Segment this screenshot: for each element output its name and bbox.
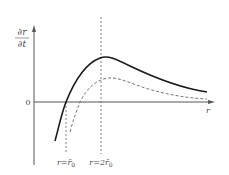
diagram-canvas: ∂r ∂t 0 r r=r̄0 r=2r̄0 [0,0,229,175]
origin-label: 0 [25,98,30,107]
solid-curve [55,57,207,141]
dashed-curve [70,78,207,132]
y-axis-arrow-icon [32,25,36,32]
x-axis-label: r [206,106,211,115]
reference-label-2r0: r=2r̄0 [89,158,112,168]
y-axis-label-denominator: ∂t [18,39,27,49]
y-axis-label-numerator: ∂r [18,27,28,37]
reference-label-r0: r=r̄0 [57,158,75,168]
x-axis-arrow-icon [208,100,215,104]
